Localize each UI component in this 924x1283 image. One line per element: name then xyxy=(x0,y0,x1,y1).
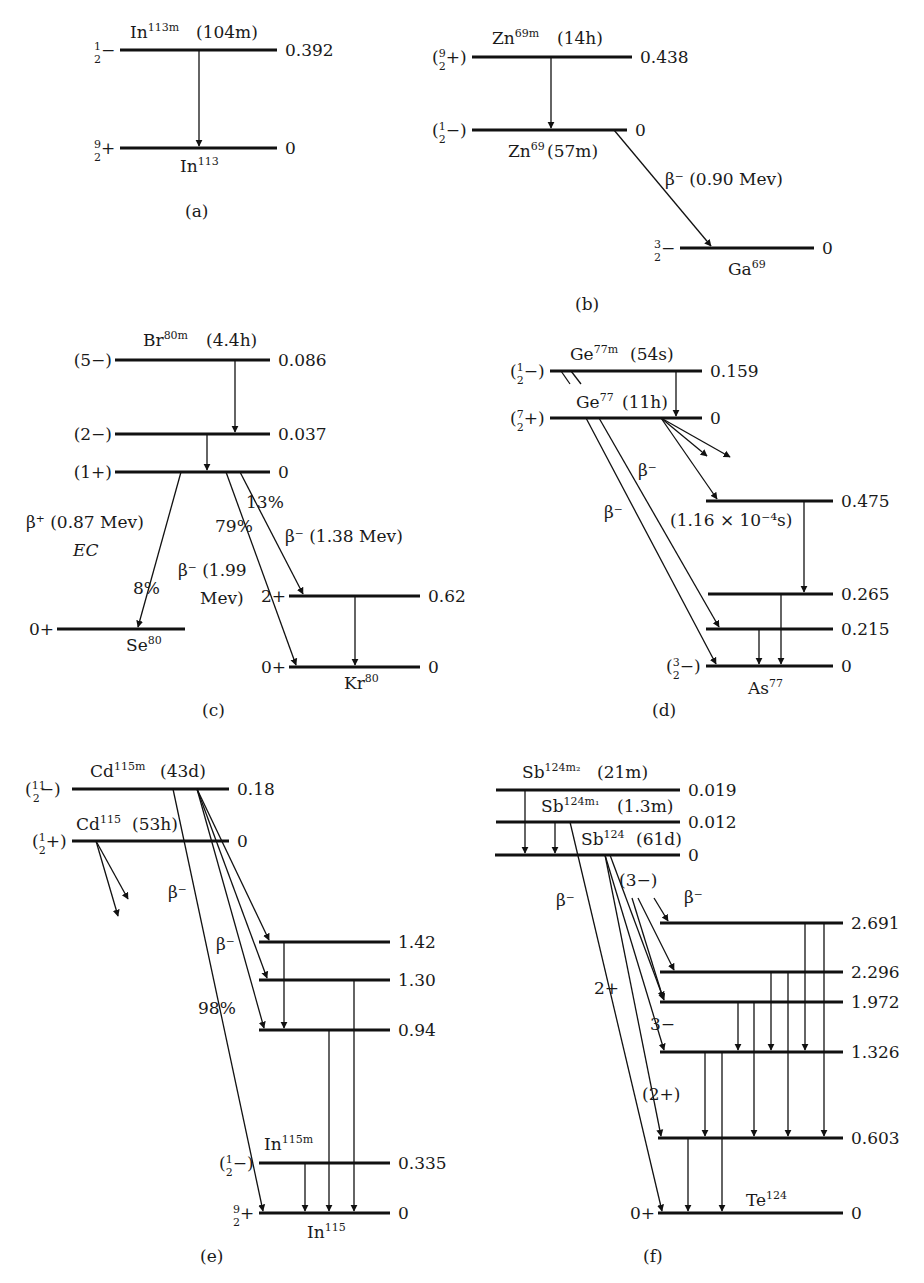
energy-value: 0 xyxy=(285,138,296,158)
energy-value: 1.326 xyxy=(851,1042,900,1062)
nuclide-label: β⁻ xyxy=(216,934,235,954)
energy-value: 0.18 xyxy=(237,779,275,799)
nuclide-label: Ge77m xyxy=(570,343,619,364)
nuclide-label: Mev) xyxy=(200,588,244,608)
energy-value: 0.62 xyxy=(428,586,466,606)
energy-value: 2.296 xyxy=(851,962,900,982)
nuclide-label: In115m xyxy=(264,1133,314,1154)
nuclide-label: (54s) xyxy=(630,344,674,364)
spin-parity-label: 92+ xyxy=(233,1203,254,1229)
spin-parity-label: (12−) xyxy=(219,1153,254,1179)
nuclide-label: Zn69m xyxy=(492,27,540,48)
nuclide-label: β⁺ (0.87 Mev) xyxy=(26,512,144,532)
transition-arrow xyxy=(661,418,717,499)
nuclide-label: In115 xyxy=(307,1221,346,1242)
nuclide-label: β⁻ (0.90 Mev) xyxy=(665,169,783,189)
nuclide-label: (3−) xyxy=(619,870,657,890)
energy-value: 0.019 xyxy=(688,780,737,800)
nuclide-label: (11h) xyxy=(622,392,668,412)
nuclide-label: β⁻ (1.38 Mev) xyxy=(285,526,403,546)
nuclide-label: Kr80 xyxy=(344,672,379,693)
transition-arrow xyxy=(586,418,716,664)
nuclide-label: β⁻ xyxy=(684,887,703,907)
spin-parity-label: 92+ xyxy=(94,138,115,164)
spin-parity-label: (12−) xyxy=(510,361,545,387)
energy-value: 0.438 xyxy=(640,47,689,67)
energy-value: 1.972 xyxy=(851,992,900,1012)
spin-parity-label: (2−) xyxy=(74,424,112,444)
nuclide-label: As77 xyxy=(747,677,783,698)
nuclide-label: (2+) xyxy=(642,1084,680,1104)
energy-value: 0 xyxy=(851,1203,862,1223)
energy-value: 0.603 xyxy=(851,1128,900,1148)
spin-parity-label: 0+ xyxy=(29,619,54,639)
nuclide-label: (1.3m) xyxy=(617,796,673,816)
energy-value: 0 xyxy=(635,120,646,140)
panel-d: 0.159(12−)0(72+)0.4750.2650.2150(32−)Ge7… xyxy=(510,343,890,698)
energy-value: 0 xyxy=(428,657,439,677)
nuclide-label: 2+ xyxy=(594,978,619,998)
nuclide-label: (61d) xyxy=(636,829,682,849)
energy-value: 0.335 xyxy=(398,1153,447,1173)
energy-value: 0 xyxy=(822,238,833,258)
nuclide-label: Cd115m xyxy=(90,760,146,781)
transition-arrow xyxy=(96,841,118,916)
nuclide-label: (57m) xyxy=(547,141,598,161)
nuclide-label: (4.4h) xyxy=(206,330,257,350)
panel-e: 0.18(112−)0(12+)1.421.300.940.335(12−)09… xyxy=(25,760,447,1242)
transition-arrow xyxy=(632,898,663,998)
nuclide-label: Se80 xyxy=(126,634,162,655)
nuclide-label: In113m xyxy=(130,21,180,42)
nuclide-label: Ge77 xyxy=(576,391,614,412)
panel-f: 0.0190.01202.6912.2961.9721.3260.60300+S… xyxy=(495,761,900,1223)
spin-parity-label: 0+ xyxy=(630,1203,655,1223)
spin-parity-label: (1+) xyxy=(74,462,112,482)
nuclide-label: β⁻ (1.99 xyxy=(178,560,247,580)
spin-parity-label: (12+) xyxy=(32,831,67,857)
nuclide-label: 79% xyxy=(215,516,253,536)
transition-arrow xyxy=(654,898,668,921)
energy-value: 0.037 xyxy=(278,424,327,444)
panel-caption: (d) xyxy=(652,700,676,720)
energy-value: 0.392 xyxy=(285,40,334,60)
decay-panels: 0.39212−092+In113m(104m)In1130.438(92+)0… xyxy=(25,21,900,1266)
spin-parity-label: (92+) xyxy=(432,47,467,73)
energy-value: 0.94 xyxy=(398,1020,436,1040)
nuclide-label: Sb124m₁ xyxy=(541,795,599,816)
nuclide-label: Zn69 xyxy=(508,140,545,161)
panel-caption: (c) xyxy=(202,700,225,720)
decay-scheme-figure: 0.39212−092+In113m(104m)In1130.438(92+)0… xyxy=(0,0,924,1283)
nuclide-label: β⁻ xyxy=(168,882,187,902)
nuclide-label: (53h) xyxy=(132,814,178,834)
panel-caption: (b) xyxy=(575,294,599,314)
nuclide-label: Br80m xyxy=(143,329,189,350)
energy-value: 2.691 xyxy=(851,913,900,933)
nuclide-label: (21m) xyxy=(597,762,648,782)
energy-value: 0 xyxy=(237,831,248,851)
energy-value: 0.086 xyxy=(278,350,327,370)
nuclide-label: Cd115 xyxy=(76,813,121,834)
nuclide-label: (14h) xyxy=(557,28,603,48)
energy-value: 1.42 xyxy=(398,932,436,952)
spin-parity-label: 32− xyxy=(654,238,675,264)
spin-parity-label: (5−) xyxy=(74,350,112,370)
nuclide-label: (1.16 × 10⁻⁴s) xyxy=(670,510,792,530)
nuclide-label: β⁻ xyxy=(638,460,657,480)
energy-value: 0 xyxy=(688,845,699,865)
spin-parity-label: (32−) xyxy=(666,656,701,682)
nuclide-label: (104m) xyxy=(196,22,258,42)
nuclide-label: β⁻ xyxy=(604,502,623,522)
spin-parity-label: 0+ xyxy=(261,657,286,677)
panel-a: 0.39212−092+In113m(104m)In113 xyxy=(94,21,334,176)
nuclide-label: 13% xyxy=(246,492,284,512)
energy-value: 0 xyxy=(278,462,289,482)
nuclide-label: (43d) xyxy=(160,761,206,781)
forbidden-transition-mark xyxy=(561,371,570,384)
nuclide-label: 98% xyxy=(198,998,236,1018)
energy-value: 0 xyxy=(710,408,721,428)
energy-value: 0.012 xyxy=(688,812,737,832)
energy-value: 1.30 xyxy=(398,970,436,990)
energy-value: 0.159 xyxy=(710,361,759,381)
energy-value: 0.475 xyxy=(841,491,890,511)
transition-arrow xyxy=(96,841,128,899)
